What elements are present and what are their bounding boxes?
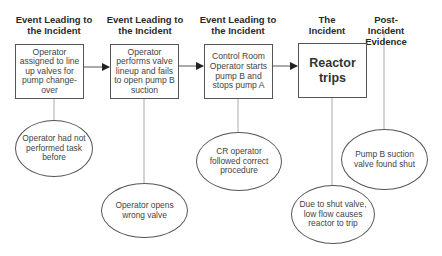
event-box-2: Operator performs valve lineup and fails… [110, 44, 179, 99]
column-header-3: Event Leading to the Incident [196, 14, 280, 36]
factor-ellipse-3: CR operator followed correct procedure [196, 132, 282, 191]
column-header-2: Event Leading to the Incident [104, 14, 186, 36]
evidence-ellipse: Pump B suction valve found shut [341, 129, 428, 190]
incident-box: Reactor trips [298, 43, 367, 98]
event-box-3: Control Room Operator starts pump B and … [204, 44, 273, 99]
factor-ellipse-4: Due to shut valve, low flow causes react… [291, 185, 375, 244]
factor-ellipse-1: Operator had not performed task before [15, 120, 93, 177]
column-header-1: Event Leading to the Incident [8, 14, 100, 36]
column-header-4: The Incident [302, 14, 352, 36]
factor-ellipse-2: Operator opens wrong valve [101, 183, 188, 238]
event-box-1: Operator assigned to line up valves for … [15, 44, 84, 99]
